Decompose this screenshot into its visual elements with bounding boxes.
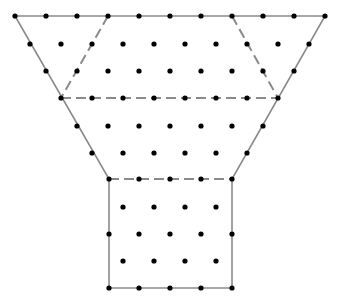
dashed-line <box>61 16 108 98</box>
lattice-dot <box>167 123 172 128</box>
lattice-dot <box>151 150 156 155</box>
lattice-dot <box>198 285 203 290</box>
lattice-dot <box>198 13 203 18</box>
lattice-dot <box>151 95 156 100</box>
lattice-dot <box>74 68 79 73</box>
lattice-dot <box>120 150 125 155</box>
dot-grid-diagram <box>0 0 337 302</box>
lattice-dot <box>244 150 249 155</box>
lattice-dot <box>322 13 327 18</box>
lattice-dot <box>74 13 79 18</box>
lattice-dot <box>89 150 94 155</box>
lattice-dot <box>105 13 110 18</box>
lattice-dot <box>291 68 296 73</box>
lattice-dot <box>120 41 125 46</box>
lattice-dot <box>167 13 172 18</box>
lattice-dot <box>167 176 172 181</box>
lattice-dot <box>167 231 172 236</box>
dashed-line <box>232 16 278 98</box>
lattice-dot <box>12 13 17 18</box>
lattice-dot <box>260 123 265 128</box>
lattice-dot <box>229 68 234 73</box>
lattice-dot <box>151 258 156 263</box>
lattice-dot <box>198 176 203 181</box>
region-middle-trapezoid <box>61 98 278 179</box>
lattice-dot <box>136 231 141 236</box>
lattice-dot <box>275 41 280 46</box>
lattice-dot <box>213 95 218 100</box>
lattice-dot <box>229 231 234 236</box>
lattice-dot <box>106 231 111 236</box>
lattice-dot <box>136 285 141 290</box>
lattice-dot <box>229 123 234 128</box>
lattice-dot <box>213 204 218 209</box>
lattice-dot <box>167 285 172 290</box>
lattice-dot <box>213 150 218 155</box>
lattice-dot <box>182 95 187 100</box>
region-left-triangle <box>15 16 108 98</box>
lattice-dot <box>151 41 156 46</box>
lattice-dot <box>151 204 156 209</box>
lattice-dot <box>89 41 94 46</box>
lattice-dot <box>58 95 63 100</box>
lattice-dot <box>27 41 32 46</box>
lattice-dot <box>229 176 234 181</box>
lattice-dot <box>213 41 218 46</box>
lattice-dot <box>260 68 265 73</box>
lattice-dot <box>244 41 249 46</box>
region-center-parallelogram <box>61 16 278 98</box>
lattice-dot <box>275 95 280 100</box>
lattice-dot <box>198 68 203 73</box>
region-right-triangle <box>232 16 325 98</box>
lattice-dot <box>213 258 218 263</box>
lattice-dot <box>182 258 187 263</box>
lattice-dots <box>12 13 327 290</box>
lattice-dot <box>136 123 141 128</box>
lattice-dot <box>89 95 94 100</box>
lattice-dot <box>43 68 48 73</box>
lattice-dot <box>105 123 110 128</box>
lattice-dot <box>136 68 141 73</box>
lattice-dot <box>105 68 110 73</box>
lattice-dot <box>229 285 234 290</box>
lattice-dot <box>260 13 265 18</box>
lattice-dot <box>120 258 125 263</box>
funnel-outline <box>15 16 325 288</box>
lattice-dot <box>106 285 111 290</box>
lattice-dot <box>136 176 141 181</box>
lattice-dot <box>106 176 111 181</box>
lattice-dot <box>306 41 311 46</box>
lattice-dot <box>198 123 203 128</box>
lattice-dot <box>120 204 125 209</box>
regions-layer <box>15 16 325 288</box>
lattice-dot <box>182 150 187 155</box>
funnel-shape-diagram <box>0 0 337 302</box>
lattice-dot <box>136 13 141 18</box>
lattice-dot <box>182 204 187 209</box>
lattice-dot <box>229 13 234 18</box>
lattice-dot <box>58 41 63 46</box>
lattice-dot <box>244 95 249 100</box>
lattice-dot <box>198 231 203 236</box>
lattice-dot <box>167 68 172 73</box>
lattice-dot <box>74 123 79 128</box>
lattice-dot <box>291 13 296 18</box>
lattice-dot <box>43 13 48 18</box>
lattice-dot <box>182 41 187 46</box>
lattice-dot <box>120 95 125 100</box>
